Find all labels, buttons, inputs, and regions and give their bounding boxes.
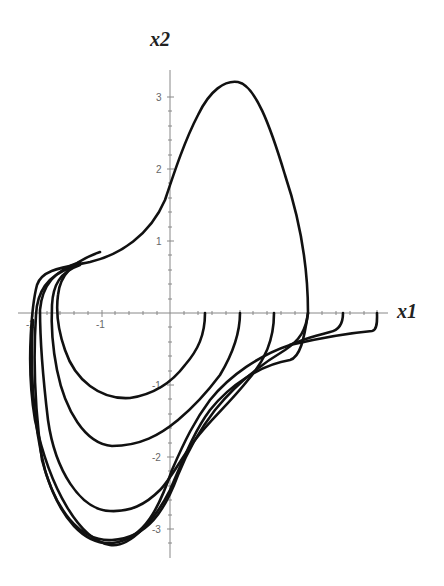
trajectory-0-5	[57, 252, 205, 398]
y-axis-label: x2	[150, 28, 170, 51]
y-tick-label: 1	[156, 236, 162, 247]
phase-portrait-chart: -2 -1 3 2 1 -1 -2 -3	[0, 0, 444, 586]
y-tick-label: -2	[152, 452, 161, 463]
trajectory-2-0	[35, 268, 308, 540]
x-axis-label: x1	[397, 300, 417, 323]
x-tick-label: -1	[96, 319, 105, 330]
y-tick-label: 2	[156, 164, 162, 175]
y-tick-label: 3	[156, 92, 162, 103]
y-tick-label: -3	[152, 524, 161, 535]
